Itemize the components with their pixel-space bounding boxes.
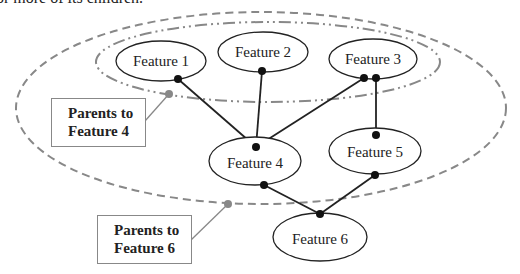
node-feature-1: Feature 1 — [116, 41, 206, 81]
node-feature-2: Feature 2 — [218, 32, 308, 72]
node-feature-3: Feature 3 — [329, 39, 417, 79]
node-label: Feature 3 — [345, 51, 401, 67]
node-label: Feature 4 — [227, 155, 284, 171]
label-box-parents-f6: Parents to Feature 6 — [97, 215, 192, 264]
node-label: Feature 1 — [133, 53, 189, 69]
edge-f2-f4 — [256, 71, 262, 147]
edge-f4-f6 — [264, 185, 320, 214]
node-label: Feature 6 — [292, 231, 349, 247]
label-line: Parents to — [114, 221, 191, 239]
label-line: Parents to — [68, 104, 145, 122]
leader-line-f4 — [145, 94, 169, 121]
label-box-parents-f4: Parents to Feature 4 — [51, 98, 146, 147]
node-feature-6: Feature 6 — [273, 213, 367, 261]
node-label: Feature 5 — [347, 144, 403, 160]
leader-line-f6 — [191, 204, 228, 240]
node-label: Feature 2 — [235, 44, 291, 60]
label-line: Feature 6 — [114, 239, 191, 257]
edge-f1-f4 — [178, 79, 256, 147]
group-marker-f4 — [165, 90, 173, 98]
label-line: Feature 4 — [68, 122, 145, 140]
group-marker-f6 — [224, 200, 232, 208]
